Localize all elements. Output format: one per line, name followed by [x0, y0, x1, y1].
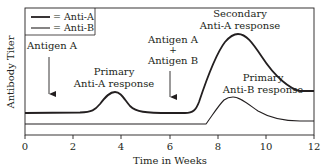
x-axis-ticks: [25, 135, 314, 139]
legend-label-anti-b: = Anti-B: [53, 22, 94, 33]
annotation-primary-anti-b-2: Anti-B response: [222, 84, 304, 95]
annotation-secondary-anti-a-1: Secondary: [213, 8, 267, 19]
x-tick-label: 4: [118, 141, 124, 152]
x-axis-tick-labels: 0 2 4 6 8 10 12: [22, 141, 321, 152]
x-tick-label: 12: [308, 141, 321, 152]
x-tick-label: 8: [215, 141, 221, 152]
legend: = Anti-A = Anti-B: [25, 8, 95, 35]
x-tick-label: 10: [260, 141, 273, 152]
y-axis-label: Antibody Titer: [5, 35, 16, 109]
antibody-titer-chart: 0 2 4 6 8 10 12 Time in Weeks Antibody T…: [0, 0, 327, 168]
annotation-primary-anti-a-2: Anti-A response: [73, 78, 154, 89]
annotation-secondary-anti-a-2: Anti-A response: [199, 20, 280, 31]
x-tick-label: 0: [22, 141, 28, 152]
annotation-plus: +: [169, 45, 177, 55]
annotation-antigen-a-second: Antigen A: [147, 34, 199, 45]
x-tick-label: 2: [70, 141, 76, 152]
legend-label-anti-a: = Anti-A: [53, 11, 94, 22]
annotation-antigen-a: Antigen A: [26, 40, 78, 51]
x-tick-label: 6: [167, 141, 173, 152]
x-axis-label: Time in Weeks: [133, 155, 207, 166]
annotation-antigen-b: Antigen B: [147, 55, 198, 66]
annotation-primary-anti-a-1: Primary: [94, 66, 135, 77]
annotation-primary-anti-b-1: Primary: [243, 72, 284, 83]
series-anti-b-line: [25, 97, 314, 124]
